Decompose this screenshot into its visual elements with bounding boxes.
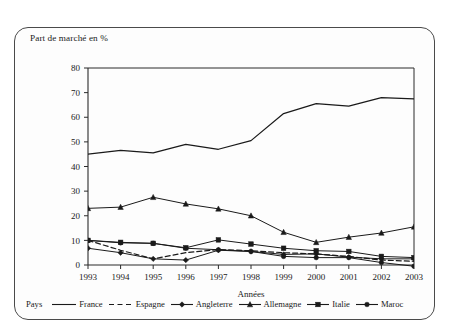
data-point-marker <box>281 229 286 234</box>
y-tick-label: 60 <box>71 112 81 122</box>
data-point-marker <box>412 255 417 260</box>
series-layer <box>85 98 416 269</box>
x-tick-label: 2003 <box>405 272 424 282</box>
x-tick-label: 1997 <box>209 272 228 282</box>
legend-item-angleterre[interactable]: Angleterre <box>170 299 238 310</box>
legend-item-italie[interactable]: Italie <box>306 299 355 310</box>
legend-label: Maroc <box>381 299 403 309</box>
y-tick-label: 40 <box>71 162 81 172</box>
x-tick-label: 1993 <box>79 272 98 282</box>
data-point-marker <box>281 254 286 259</box>
data-point-marker <box>249 242 254 247</box>
data-point-marker <box>151 256 156 261</box>
x-tick-label: 1995 <box>144 272 163 282</box>
data-point-marker <box>347 255 352 260</box>
data-point-marker <box>118 241 123 246</box>
legend-swatch-espagne-icon <box>108 299 134 310</box>
x-tick-label: 1998 <box>242 272 261 282</box>
legend-title: Pays <box>26 299 42 309</box>
y-tick-label: 10 <box>71 236 81 246</box>
series-line <box>88 197 414 242</box>
data-point-marker <box>281 246 286 251</box>
data-point-marker <box>85 246 90 251</box>
y-tick-label: 50 <box>71 137 81 147</box>
data-point-marker <box>411 224 416 229</box>
data-point-marker <box>184 246 189 251</box>
x-tick-label: 2002 <box>372 272 390 282</box>
series-line <box>88 98 414 155</box>
data-point-marker <box>151 241 156 246</box>
legend-item-allemagne[interactable]: Allemagne <box>238 299 307 310</box>
legend-item-france[interactable]: France <box>51 299 107 310</box>
data-point-marker <box>314 248 319 253</box>
legend-label: Angleterre <box>196 299 233 309</box>
x-tick-label: 2000 <box>307 272 326 282</box>
legend-swatch-maroc-icon <box>355 299 379 310</box>
x-tick-label: 2001 <box>340 272 358 282</box>
y-tick-label: 0 <box>76 260 81 270</box>
legend-item-espagne[interactable]: Espagne <box>108 299 170 310</box>
legend-label: Allemagne <box>264 299 302 309</box>
x-tick-label: 1999 <box>275 272 294 282</box>
legend-label: Italie <box>332 299 350 309</box>
x-tick-label: 1996 <box>177 272 196 282</box>
data-point-marker <box>151 194 156 199</box>
data-point-marker <box>412 264 417 269</box>
y-tick-label: 70 <box>71 88 81 98</box>
series-france <box>88 98 414 155</box>
data-point-marker <box>216 247 221 252</box>
data-point-marker <box>314 255 319 260</box>
y-tick-label: 30 <box>71 186 81 196</box>
data-point-marker <box>379 254 384 259</box>
legend-label: France <box>79 299 102 309</box>
data-point-marker <box>216 238 221 243</box>
data-point-marker <box>249 249 254 254</box>
legend-swatch-angleterre-icon <box>170 299 194 310</box>
legend-swatch-allemagne-icon <box>238 299 262 310</box>
y-tick-label: 20 <box>71 211 81 221</box>
axes-layer: 0102030405060708019931994199519961997199… <box>71 63 424 282</box>
legend-item-maroc[interactable]: Maroc <box>355 299 408 310</box>
y-tick-label: 80 <box>71 63 81 73</box>
series-allemagne <box>85 194 416 244</box>
legend-swatch-italie-icon <box>306 299 330 310</box>
chart-legend: Pays FranceEspagneAngleterreAllemagneIta… <box>26 296 426 312</box>
data-point-marker <box>347 249 352 254</box>
data-point-marker <box>379 260 384 265</box>
x-tick-label: 1994 <box>112 272 131 282</box>
legend-label: Espagne <box>136 299 165 309</box>
data-point-marker <box>183 257 188 262</box>
legend-swatch-france-icon <box>51 299 77 310</box>
line-chart: 0102030405060708019931994199519961997199… <box>14 27 435 320</box>
